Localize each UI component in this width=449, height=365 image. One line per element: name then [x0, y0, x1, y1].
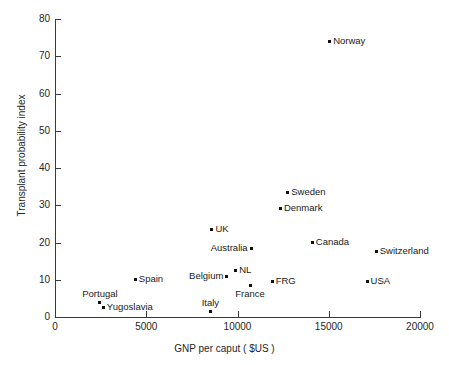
- data-point-spain: [134, 278, 137, 281]
- data-point-denmark: [279, 207, 282, 210]
- data-point-frg: [271, 280, 274, 283]
- y-tick-50: [55, 131, 61, 132]
- data-label-yugoslavia: Yugoslavia: [107, 302, 153, 312]
- data-label-portugal: Portugal: [82, 289, 117, 299]
- y-tick-40: [55, 168, 61, 169]
- y-tick-70: [55, 56, 61, 57]
- data-point-france: [249, 284, 252, 287]
- data-point-canada: [311, 241, 314, 244]
- data-label-italy: Italy: [202, 298, 219, 308]
- y-ticklabel-60: 60: [28, 89, 50, 99]
- y-tick-20: [55, 243, 61, 244]
- data-label-australia: Australia: [211, 243, 248, 253]
- y-tick-0: [55, 317, 61, 318]
- data-label-nl: NL: [239, 265, 251, 275]
- data-label-usa: USA: [371, 276, 391, 286]
- y-ticklabel-20: 20: [28, 238, 50, 248]
- data-point-usa: [366, 280, 369, 283]
- data-point-italy: [209, 310, 212, 313]
- data-point-nl: [234, 269, 237, 272]
- data-point-australia: [250, 247, 253, 250]
- y-ticklabel-80: 80: [28, 14, 50, 24]
- data-label-france: France: [235, 289, 265, 299]
- y-tick-60: [55, 94, 61, 95]
- data-point-belgium: [225, 275, 228, 278]
- y-axis-title: Transplant probability index: [16, 56, 27, 256]
- data-label-denmark: Denmark: [284, 203, 323, 213]
- data-point-uk: [210, 228, 213, 231]
- y-ticklabel-50: 50: [28, 126, 50, 136]
- y-ticklabel-10: 10: [28, 275, 50, 285]
- data-label-belgium: Belgium: [189, 271, 223, 281]
- y-tick-10: [55, 280, 61, 281]
- x-ticklabel-5000: 5000: [116, 322, 176, 332]
- data-label-frg: FRG: [276, 276, 296, 286]
- y-ticklabel-40: 40: [28, 163, 50, 173]
- x-ticklabel-15000: 15000: [299, 322, 359, 332]
- y-ticklabel-30: 30: [28, 200, 50, 210]
- data-label-switzerland: Switzerland: [380, 246, 429, 256]
- data-label-uk: UK: [215, 224, 228, 234]
- scatter-plot-figure: 01020304050607080 05000100001500020000 T…: [0, 0, 449, 365]
- data-point-portugal: [98, 301, 101, 304]
- data-point-sweden: [286, 191, 289, 194]
- data-label-spain: Spain: [139, 274, 163, 284]
- x-axis-line: [55, 317, 421, 318]
- x-axis-title: GNP per caput ( $US ): [0, 343, 449, 354]
- data-point-yugoslavia: [102, 306, 105, 309]
- data-point-switzerland: [375, 250, 378, 253]
- data-point-norway: [328, 40, 331, 43]
- y-tick-80: [55, 19, 61, 20]
- x-ticklabel-20000: 20000: [390, 322, 449, 332]
- y-tick-30: [55, 205, 61, 206]
- y-ticklabel-70: 70: [28, 51, 50, 61]
- data-label-sweden: Sweden: [291, 187, 325, 197]
- x-ticklabel-10000: 10000: [208, 322, 268, 332]
- x-tick-10000: [238, 311, 239, 317]
- data-label-canada: Canada: [316, 237, 349, 247]
- x-ticklabel-0: 0: [25, 322, 85, 332]
- x-tick-20000: [420, 311, 421, 317]
- data-label-norway: Norway: [333, 36, 365, 46]
- y-ticklabel-0: 0: [28, 312, 50, 322]
- x-tick-15000: [329, 311, 330, 317]
